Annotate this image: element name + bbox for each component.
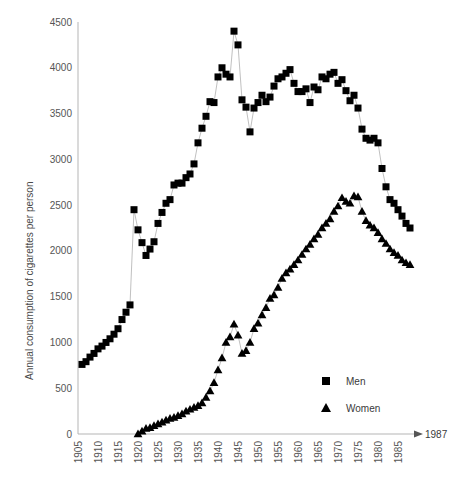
y-tick-label: 3000 — [50, 154, 73, 165]
chart-canvas: Annual consumption of cigarettes per per… — [0, 0, 464, 492]
x-tick-label: 1960 — [293, 441, 304, 464]
data-point-women — [226, 333, 235, 341]
chart-legend: MenWomen — [321, 376, 380, 414]
x-tick-label: 1985 — [393, 441, 404, 464]
x-tick-label: 1955 — [273, 441, 284, 464]
data-point-men — [395, 206, 402, 213]
data-point-women — [334, 202, 343, 210]
x-tick-label: 1980 — [373, 441, 384, 464]
x-tick-label: 1965 — [313, 441, 324, 464]
data-point-men — [267, 94, 274, 101]
data-point-men — [167, 196, 174, 203]
x-tick-label: 1945 — [233, 441, 244, 464]
data-point-women — [358, 207, 367, 215]
data-point-men — [119, 316, 126, 323]
data-point-men — [307, 99, 314, 106]
data-point-men — [315, 86, 322, 93]
data-point-men — [187, 170, 194, 177]
legend-square-icon — [322, 377, 330, 385]
x-axis-arrow-icon — [414, 431, 423, 438]
y-axis-tick-labels: 050010001500200025003000350040004500 — [50, 17, 73, 440]
data-point-women — [210, 378, 219, 386]
x-tick-label: 1910 — [93, 441, 104, 464]
data-point-men — [115, 325, 122, 332]
x-tick-label: 1930 — [173, 441, 184, 464]
data-point-men — [239, 96, 246, 103]
y-tick-label: 500 — [55, 383, 72, 394]
data-point-men — [339, 76, 346, 83]
x-tick-label: 1905 — [73, 441, 84, 464]
data-point-men — [291, 80, 298, 87]
data-point-men — [215, 73, 222, 80]
cigarette-consumption-chart: Annual consumption of cigarettes per per… — [0, 0, 464, 492]
data-point-women — [270, 290, 279, 298]
y-tick-label: 1000 — [50, 337, 73, 348]
y-tick-label: 4500 — [50, 17, 73, 28]
y-axis-title-text: Annual consumption of cigarettes per per… — [24, 182, 35, 380]
x-tick-label: 1975 — [353, 441, 364, 464]
data-point-men — [127, 301, 134, 308]
data-point-men — [123, 309, 130, 316]
data-point-men — [399, 213, 406, 220]
y-axis-title: Annual consumption of cigarettes per per… — [24, 182, 35, 380]
x-tick-label: 1920 — [133, 441, 144, 464]
x-axis-tick-labels: 1905191019151920192519301935194019451950… — [73, 441, 404, 464]
x-tick-label: 1935 — [193, 441, 204, 464]
data-point-men — [159, 209, 166, 216]
data-point-men — [383, 183, 390, 190]
data-point-men — [203, 113, 210, 120]
y-tick-label: 2000 — [50, 245, 73, 256]
data-point-men — [351, 92, 358, 99]
legend-label-men: Men — [346, 376, 365, 387]
legend-label-women: Women — [346, 403, 380, 414]
data-point-women — [274, 283, 283, 291]
data-point-men — [235, 41, 242, 48]
data-point-women — [242, 346, 251, 354]
data-point-men — [135, 226, 142, 233]
data-point-women — [218, 354, 227, 362]
data-point-men — [287, 66, 294, 73]
data-point-women — [258, 311, 267, 319]
x-tick-label: 1950 — [253, 441, 264, 464]
series-connector-lines — [82, 31, 410, 434]
data-point-men — [255, 99, 262, 106]
data-point-men — [139, 239, 146, 246]
data-point-women — [230, 320, 239, 328]
data-point-men — [375, 139, 382, 146]
data-point-men — [355, 105, 362, 112]
data-point-men — [219, 64, 226, 71]
y-tick-label: 2500 — [50, 200, 73, 211]
data-point-men — [391, 200, 398, 207]
y-tick-label: 0 — [66, 429, 72, 440]
data-point-women — [246, 338, 255, 346]
data-point-men — [343, 87, 350, 94]
data-point-women — [254, 319, 263, 327]
data-point-men — [247, 128, 254, 135]
data-point-women — [326, 214, 335, 222]
data-point-women — [262, 303, 271, 311]
x-tick-label: 1940 — [213, 441, 224, 464]
data-point-women — [234, 331, 243, 339]
data-point-men — [199, 125, 206, 132]
data-point-women — [214, 366, 223, 374]
data-point-men — [379, 165, 386, 172]
legend-triangle-icon — [321, 403, 331, 412]
data-point-men — [131, 206, 138, 213]
y-tick-label: 1500 — [50, 291, 73, 302]
data-point-men — [211, 99, 218, 106]
y-tick-label: 4000 — [50, 62, 73, 73]
data-point-men — [359, 126, 366, 133]
x-tick-label: 1925 — [153, 441, 164, 464]
data-point-men — [231, 28, 238, 35]
x-axis-end-year-label: 1987 — [425, 429, 448, 440]
data-point-men — [151, 238, 158, 245]
data-point-men — [271, 83, 278, 90]
series-line-women — [138, 196, 410, 434]
data-point-men — [155, 220, 162, 227]
data-point-women — [206, 387, 215, 395]
data-point-men — [195, 139, 202, 146]
data-point-men — [407, 225, 414, 232]
data-point-men — [191, 160, 198, 167]
data-point-men — [303, 85, 310, 92]
data-point-men — [143, 252, 150, 259]
